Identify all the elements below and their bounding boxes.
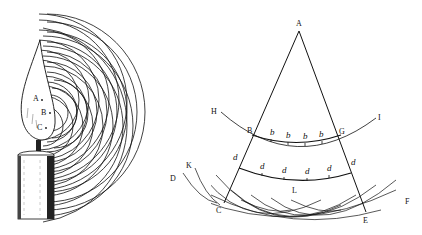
label-K-main: K xyxy=(186,161,192,170)
overlay-labels: K D xyxy=(0,0,422,235)
label-D-main: D xyxy=(170,174,176,183)
